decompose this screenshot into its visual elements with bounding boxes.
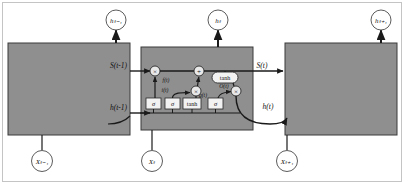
forget-multiply-symbol: × [153,68,157,76]
output-multiply-symbol: × [234,88,238,96]
figure-canvas: hₜ₋₁ Xₜ₋₁ hₜ₊₁ Xₜ₊₁ hₜ Xₜ S(t-1) × + S(t… [0,0,404,184]
output-signal-label: O(t) [219,83,228,90]
h-next-output-label: hₜ₊₁ [375,17,387,25]
state-tanh-label: tanh [220,75,230,81]
state-add-symbol: + [197,68,201,76]
lstm-unfolded-diagram: hₜ₋₁ Xₜ₋₁ hₜ₊₁ Xₜ₊₁ hₜ Xₜ S(t-1) × + S(t… [0,0,404,184]
state-out-label: S(t) [257,61,268,70]
state-in-label: S(t-1) [110,61,128,70]
x-next-input-label: Xₜ₊₁ [280,158,294,166]
input-signal-label: i(t) [162,87,169,94]
x-input-label: Xₜ [148,158,156,166]
cell-prev-body [8,43,130,135]
input-multiply-symbol: × [194,88,198,96]
forget-signal-label: f(t) [163,77,170,84]
h-prev-output-label: hₜ₋₁ [110,17,122,25]
candidate-gate-symbol: tanh [187,101,197,107]
hidden-in-label: h(t-1) [110,103,128,112]
x-prev-input-label: Xₜ₋₁ [35,158,49,166]
hidden-out-label: h(t) [263,102,274,111]
cell-next-body [285,43,397,135]
